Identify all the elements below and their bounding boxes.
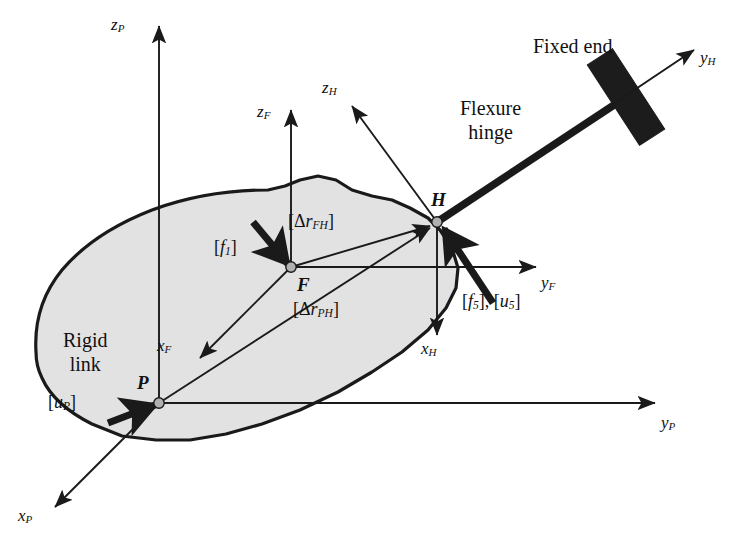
rigid-link-caption-line2: link bbox=[70, 353, 101, 375]
axis-label-z-F: zF bbox=[257, 103, 270, 121]
axis-label-x-P: xP bbox=[18, 507, 32, 525]
flexure-hinge-caption-line1: Flexure bbox=[460, 97, 521, 119]
vector-label-delta-r-PH: [ΔrPH] bbox=[293, 300, 339, 320]
diagram-canvas: Rigid link Flexure hinge Fixed end zPyPx… bbox=[0, 0, 730, 549]
rigid-link-body bbox=[36, 176, 458, 440]
vector-label-delta-r-FH: [ΔrFH] bbox=[288, 212, 334, 232]
diagram-svg bbox=[0, 0, 730, 549]
label-f1-force-arrow: [f1] bbox=[214, 238, 237, 258]
rigid-link-caption: Rigid link bbox=[63, 328, 107, 377]
label-f5-u5-force-arrow: [f5], [u5] bbox=[462, 292, 521, 312]
axis-label-y-F: yF bbox=[541, 274, 555, 292]
axis-label-z-H: zH bbox=[322, 79, 337, 97]
fixed-end-caption: Fixed end bbox=[533, 36, 612, 56]
label-uP-displacement-arrow: [uP] bbox=[48, 393, 76, 413]
point-label-F: F bbox=[297, 275, 310, 294]
rigid-link-caption-line1: Rigid bbox=[63, 329, 107, 351]
flexure-hinge-caption: Flexure hinge bbox=[460, 96, 521, 145]
axis-label-x-F: xF bbox=[157, 337, 171, 355]
frame-origin-node-F bbox=[286, 262, 296, 272]
axis-label-x-H: xH bbox=[421, 340, 437, 358]
frame-origin-node-P bbox=[154, 398, 164, 408]
fixed-end-block bbox=[587, 49, 664, 146]
point-label-H: H bbox=[431, 190, 446, 209]
point-label-P: P bbox=[137, 373, 149, 392]
frame-origin-node-H bbox=[432, 217, 442, 227]
flexure-hinge-caption-line2: hinge bbox=[468, 121, 512, 143]
axis-label-z-P: zP bbox=[111, 16, 124, 34]
axis-label-y-H: yH bbox=[700, 49, 716, 67]
axis-label-y-P: yP bbox=[661, 414, 675, 432]
